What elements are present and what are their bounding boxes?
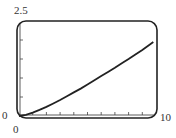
x-min-label: 0 <box>13 124 19 135</box>
y-min-label: 0 <box>2 110 8 121</box>
chart-plot <box>0 0 176 138</box>
x-ticks <box>33 112 143 115</box>
x-max-label: 10 <box>160 112 171 123</box>
y-ticks <box>20 40 23 97</box>
plot-frame <box>17 21 157 118</box>
y-max-label: 2.5 <box>14 5 28 16</box>
data-curve <box>19 42 153 116</box>
